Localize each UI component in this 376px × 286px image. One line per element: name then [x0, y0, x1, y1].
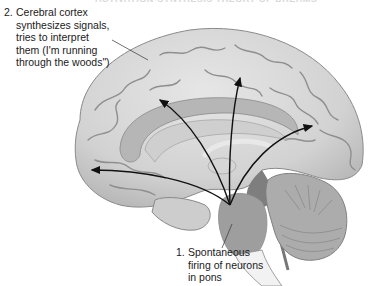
- cortex-label-line-2: synthesizes signals,: [4, 19, 110, 32]
- pons-label: 1.Spontaneous firing of neurons in pons: [176, 246, 263, 284]
- temporal-lobe: [152, 198, 210, 231]
- cerebellum: [266, 173, 347, 260]
- cortex-label-line-3: tries to interpret: [4, 31, 110, 44]
- cortex-label-line-5: through the woods"): [4, 56, 110, 69]
- pons-label-line-2: firing of neurons: [176, 259, 263, 272]
- thalamus: [208, 158, 236, 174]
- cortex-label-line-1: 2.Cerebral cortex: [4, 6, 110, 19]
- brain-diagram: ACTIVATION-SYNTHESIS THEORY OF DREAMS: [0, 0, 376, 286]
- pons-label-line-3: in pons: [176, 271, 263, 284]
- cortex-label-line-4: them (I'm running: [4, 44, 110, 57]
- cortex-label: 2.Cerebral cortex synthesizes signals, t…: [4, 6, 110, 69]
- pons-label-line-1: 1.Spontaneous: [176, 246, 263, 259]
